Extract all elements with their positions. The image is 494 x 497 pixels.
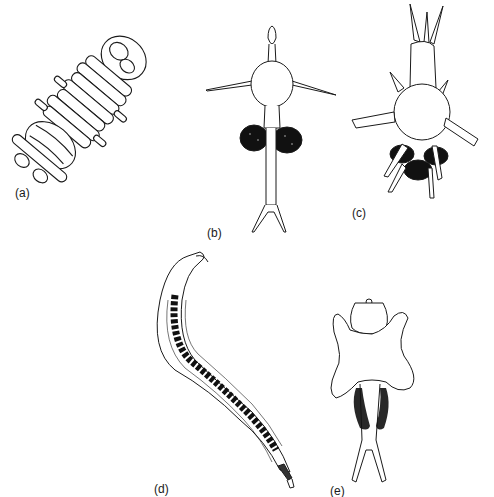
figure-panels: (a) (b) xyxy=(0,0,494,497)
panel-e-label: (e) xyxy=(330,485,345,497)
panel-e-illustration xyxy=(0,0,494,497)
